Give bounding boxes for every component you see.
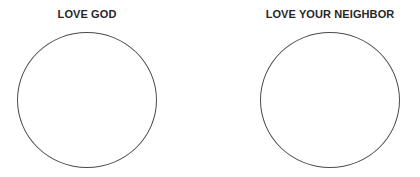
love-god-circle: [17, 32, 157, 168]
love-neighbor-heading: LOVE YOUR NEIGHBOR: [243, 8, 417, 20]
love-neighbor-panel: LOVE YOUR NEIGHBOR: [243, 0, 417, 177]
love-god-heading: LOVE GOD: [0, 8, 174, 20]
love-neighbor-circle: [260, 32, 400, 168]
love-god-panel: LOVE GOD: [0, 0, 174, 177]
